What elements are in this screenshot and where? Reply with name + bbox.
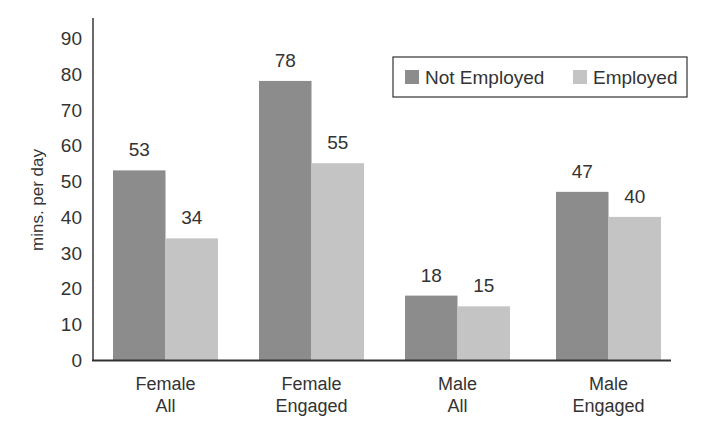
x-category-label: Engaged bbox=[275, 396, 347, 416]
legend-swatch-employed bbox=[573, 70, 587, 84]
y-tick-label: 0 bbox=[71, 350, 82, 371]
y-axis-ticks: 0102030405060708090 bbox=[61, 28, 82, 371]
legend-label-employed: Employed bbox=[593, 67, 678, 88]
bar-not-employed bbox=[556, 192, 609, 360]
y-tick-label: 20 bbox=[61, 278, 82, 299]
x-category-label: Male bbox=[589, 374, 628, 394]
bar-value-label: 40 bbox=[624, 186, 645, 207]
bar-employed bbox=[609, 217, 662, 360]
bar-not-employed bbox=[259, 81, 312, 360]
bar-not-employed bbox=[113, 170, 166, 360]
y-tick-label: 10 bbox=[61, 314, 82, 335]
bar-value-label: 55 bbox=[327, 132, 348, 153]
bar-employed bbox=[166, 238, 219, 360]
y-axis-label: mins. per day bbox=[28, 148, 47, 251]
legend-label-not-employed: Not Employed bbox=[425, 67, 544, 88]
y-tick-label: 50 bbox=[61, 171, 82, 192]
bar-employed bbox=[312, 163, 365, 360]
bar-chart: 0102030405060708090 mins. per day 533478… bbox=[0, 0, 702, 428]
y-tick-label: 80 bbox=[61, 64, 82, 85]
y-tick-label: 30 bbox=[61, 243, 82, 264]
x-category-label: Male bbox=[438, 374, 477, 394]
y-tick-label: 40 bbox=[61, 207, 82, 228]
bar-employed bbox=[458, 306, 511, 360]
x-category-label: Female bbox=[135, 374, 195, 394]
y-tick-label: 60 bbox=[61, 135, 82, 156]
x-axis-categories: FemaleAllFemaleEngagedMaleAllMaleEngaged bbox=[135, 374, 644, 416]
legend-swatch-not-employed bbox=[405, 70, 419, 84]
x-category-label: All bbox=[155, 396, 175, 416]
bar-value-label: 53 bbox=[129, 139, 150, 160]
x-category-label: Engaged bbox=[572, 396, 644, 416]
legend: Not Employed Employed bbox=[393, 57, 687, 97]
y-tick-label: 90 bbox=[61, 28, 82, 49]
x-category-label: Female bbox=[281, 374, 341, 394]
bar-value-label: 78 bbox=[275, 50, 296, 71]
bar-value-label: 15 bbox=[473, 275, 494, 296]
bar-value-label: 34 bbox=[181, 207, 203, 228]
y-tick-label: 70 bbox=[61, 100, 82, 121]
bar-not-employed bbox=[405, 296, 458, 360]
bar-value-label: 18 bbox=[421, 265, 442, 286]
bar-value-label: 47 bbox=[572, 161, 593, 182]
x-category-label: All bbox=[447, 396, 467, 416]
